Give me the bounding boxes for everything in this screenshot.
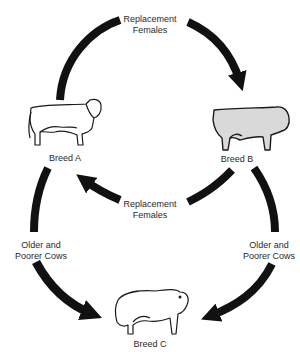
breed-a-label: Breed A bbox=[40, 153, 90, 163]
label-line: Older and bbox=[234, 240, 300, 251]
label-line: Older and bbox=[6, 240, 76, 251]
arrow-b-to-c bbox=[210, 264, 272, 316]
bull-icon bbox=[116, 290, 189, 334]
arc-b-down bbox=[254, 168, 275, 232]
label-line: Poorer Cows bbox=[234, 251, 300, 262]
breed-b-label: Breed B bbox=[212, 154, 262, 164]
crossbreeding-diagram bbox=[0, 0, 300, 352]
breed-c-label: Breed C bbox=[125, 339, 175, 349]
label-line: Females bbox=[118, 210, 182, 221]
label-older-poorer-cows-right: Older and Poorer Cows bbox=[234, 240, 300, 262]
label-line: Replacement bbox=[118, 199, 182, 210]
label-line: Poorer Cows bbox=[6, 251, 76, 262]
label-line: Females bbox=[118, 25, 182, 36]
label-replacement-females-top: Replacement Females bbox=[118, 14, 182, 36]
label-replacement-females-middle: Replacement Females bbox=[118, 199, 182, 221]
arc-a-down bbox=[34, 168, 48, 232]
arrow-b-to-a bbox=[84, 170, 232, 202]
angus-cow-icon bbox=[213, 107, 289, 150]
hereford-cow-icon bbox=[29, 99, 101, 145]
arrow-a-to-c bbox=[36, 262, 92, 314]
label-line: Replacement bbox=[118, 14, 182, 25]
label-older-poorer-cows-left: Older and Poorer Cows bbox=[6, 240, 76, 262]
